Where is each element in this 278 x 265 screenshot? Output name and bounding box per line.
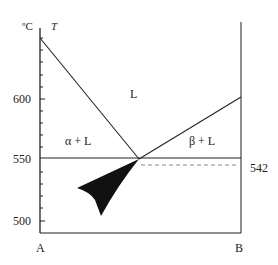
region-liquid-label: L xyxy=(130,88,137,100)
liquidus-beta xyxy=(139,97,241,159)
temperature-axis-label: T xyxy=(51,20,57,32)
shaded-region xyxy=(77,159,139,216)
tick-label-500: 500 xyxy=(13,215,31,227)
phase-diagram xyxy=(0,0,278,265)
tick-label-550: 550 xyxy=(13,153,31,165)
dashed-line-label: 542 xyxy=(250,162,268,174)
component-b-label: B xyxy=(235,242,243,254)
axis-ticks xyxy=(40,38,45,221)
component-a-label: A xyxy=(36,242,45,254)
unit-label: ºC xyxy=(22,20,33,32)
region-beta-liquid-label: β + L xyxy=(189,135,215,147)
tick-label-600: 600 xyxy=(13,93,31,105)
region-alpha-liquid-label: α + L xyxy=(65,135,91,147)
